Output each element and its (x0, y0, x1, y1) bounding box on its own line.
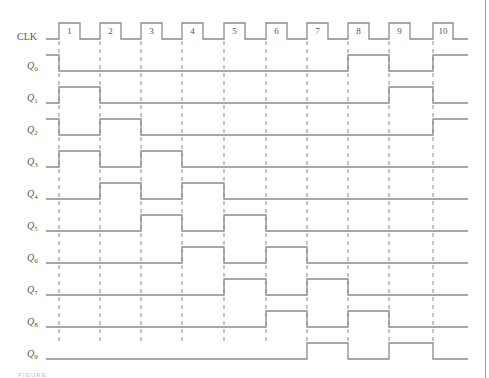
clock-pulse-number: 6 (274, 26, 279, 36)
clock-edge-guides (59, 41, 433, 344)
signal-q3: Q3 (27, 151, 468, 169)
signal-q6: Q6 (27, 247, 468, 265)
clk-label: CLK (17, 31, 38, 42)
q6-label: Q6 (27, 252, 38, 265)
signal-q1: Q1 (27, 87, 468, 105)
q3-wave (46, 151, 468, 167)
signal-waveforms: Q0Q1Q2Q3Q4Q5Q6Q7Q8Q9 (27, 55, 468, 361)
q9-wave (46, 343, 468, 359)
clock-pulse-number: 4 (190, 26, 195, 36)
clock-pulse-number: 10 (439, 26, 449, 36)
clock-pulse-number: 9 (397, 26, 402, 36)
q8-label: Q8 (27, 316, 38, 329)
signal-q9: Q9 (27, 343, 468, 361)
q0-wave (46, 55, 468, 71)
signal-q5: Q5 (27, 215, 468, 233)
signal-q4: Q4 (27, 183, 468, 201)
q7-label: Q7 (27, 284, 38, 297)
q6-wave (46, 247, 468, 263)
q3-label: Q3 (27, 156, 38, 169)
q5-label: Q5 (27, 220, 38, 233)
q1-wave (46, 87, 468, 103)
clock-pulse-number: 2 (108, 26, 113, 36)
clock-pulse-number: 8 (356, 26, 361, 36)
q9-label: Q9 (27, 348, 38, 361)
q7-wave (46, 279, 468, 295)
q4-wave (46, 183, 468, 199)
q4-label: Q4 (27, 188, 38, 201)
figure-caption: FIGURE (18, 372, 47, 378)
clock-pulse-number: 3 (149, 26, 154, 36)
clock-pulse-number: 1 (67, 26, 72, 36)
signal-q8: Q8 (27, 311, 468, 329)
q8-wave (46, 311, 468, 327)
signal-q7: Q7 (27, 279, 468, 297)
clock-pulse-number: 5 (232, 26, 237, 36)
signal-q2: Q2 (27, 119, 468, 137)
clock-pulse-number: 7 (315, 26, 320, 36)
q5-wave (46, 215, 468, 231)
q1-label: Q1 (27, 92, 38, 105)
signal-q0: Q0 (27, 55, 468, 73)
q2-label: Q2 (27, 124, 38, 137)
timing-diagram: CLK12345678910 Q0Q1Q2Q3Q4Q5Q6Q7Q8Q9 (0, 0, 489, 378)
q2-wave (46, 119, 468, 135)
clock-waveform: CLK12345678910 (17, 23, 468, 42)
q0-label: Q0 (27, 60, 38, 73)
